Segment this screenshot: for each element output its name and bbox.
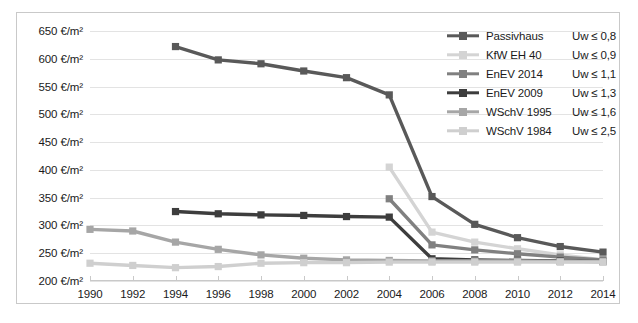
series-marker	[471, 259, 478, 266]
x-axis-tick-label: 2010	[505, 288, 530, 300]
chart-container: 650 €/m²600 €/m²550 €/m²500 €/m²450 €/m²…	[16, 12, 620, 304]
series-marker	[215, 263, 222, 270]
x-axis-tick-label: 1998	[248, 288, 273, 300]
legend-swatch-icon	[447, 30, 479, 41]
series-marker	[300, 212, 307, 219]
y-axis-tick-label: 250 €/m²	[38, 247, 83, 259]
series-marker	[343, 213, 350, 220]
y-axis-tick-label: 200 €/m²	[38, 275, 83, 287]
y-axis-tick-label: 550 €/m²	[38, 81, 83, 93]
x-axis-tick-label: 2004	[377, 288, 402, 300]
legend-item-wschv-1984[interactable]: WSchV 1984Uw ≤ 2,5	[447, 122, 616, 139]
legend-series-name: WSchV 1984	[486, 125, 572, 137]
series-marker	[514, 259, 521, 266]
legend-swatch-icon	[447, 106, 479, 117]
series-marker	[599, 259, 606, 266]
series-marker	[215, 246, 222, 253]
legend-item-wschv-1995[interactable]: WSchV 1995Uw ≤ 1,6	[447, 103, 616, 120]
series-marker	[86, 226, 93, 233]
legend-series-uw-value: Uw ≤ 0,9	[572, 49, 616, 61]
legend-series-uw-value: Uw ≤ 1,3	[572, 87, 616, 99]
series-marker	[386, 259, 393, 266]
legend-series-uw-value: Uw ≤ 2,5	[572, 125, 616, 137]
series-marker	[257, 60, 264, 67]
legend-item-passivhaus[interactable]: PassivhausUw ≤ 0,8	[447, 27, 616, 44]
x-axis-tick-label: 2002	[334, 288, 359, 300]
series-marker	[215, 56, 222, 63]
series-marker	[300, 259, 307, 266]
series-line	[389, 167, 603, 260]
series-marker	[471, 221, 478, 228]
series-wschv-1984	[86, 259, 606, 272]
legend-swatch-icon	[447, 87, 479, 98]
legend-series-name: EnEV 2009	[486, 87, 572, 99]
series-marker	[428, 229, 435, 236]
series-marker	[172, 208, 179, 215]
series-marker	[557, 243, 564, 250]
y-axis-tick-label: 300 €/m²	[38, 219, 83, 231]
x-axis-tick-label: 1994	[163, 288, 188, 300]
series-marker	[428, 193, 435, 200]
x-axis-tick-mark	[603, 276, 604, 281]
legend-series-name: KfW EH 40	[486, 49, 572, 61]
series-marker	[172, 239, 179, 246]
legend-series-name: EnEV 2014	[486, 68, 572, 80]
legend-series-name: Passivhaus	[486, 30, 572, 42]
x-axis-tick-label: 1992	[120, 288, 145, 300]
y-axis-tick-label: 650 €/m²	[38, 25, 83, 37]
series-marker	[257, 251, 264, 258]
series-marker	[514, 234, 521, 241]
x-axis-tick-label: 1990	[77, 288, 102, 300]
series-marker	[557, 259, 564, 266]
x-axis-tick-label: 2000	[291, 288, 316, 300]
series-marker	[129, 227, 136, 234]
series-marker	[514, 250, 521, 257]
legend-series-uw-value: Uw ≤ 0,8	[572, 30, 616, 42]
series-marker	[257, 260, 264, 267]
series-marker	[129, 262, 136, 269]
series-marker	[172, 43, 179, 50]
legend-swatch-icon	[447, 49, 479, 60]
legend-series-name: WSchV 1995	[486, 106, 572, 118]
series-marker	[300, 67, 307, 74]
series-marker	[599, 249, 606, 256]
series-marker	[386, 195, 393, 202]
series-marker	[386, 91, 393, 98]
legend-series-uw-value: Uw ≤ 1,1	[572, 68, 616, 80]
series-marker	[428, 259, 435, 266]
legend-series-uw-value: Uw ≤ 1,6	[572, 106, 616, 118]
gridline	[90, 281, 603, 282]
series-marker	[471, 246, 478, 253]
x-axis-tick-label: 2008	[462, 288, 487, 300]
y-axis-tick-label: 450 €/m²	[38, 136, 83, 148]
y-axis-tick-label: 600 €/m²	[38, 53, 83, 65]
legend-swatch-icon	[447, 125, 479, 136]
series-marker	[343, 74, 350, 81]
series-marker	[386, 214, 393, 221]
y-axis-tick-label: 500 €/m²	[38, 108, 83, 120]
series-marker	[428, 241, 435, 248]
series-marker	[343, 259, 350, 266]
legend-item-enev-2014[interactable]: EnEV 2014Uw ≤ 1,1	[447, 65, 616, 82]
y-axis-tick-label: 400 €/m²	[38, 164, 83, 176]
series-marker	[471, 239, 478, 246]
y-axis-tick-label: 350 €/m²	[38, 192, 83, 204]
series-marker	[86, 260, 93, 267]
x-axis-tick-label: 2006	[419, 288, 444, 300]
series-marker	[257, 211, 264, 218]
legend-item-kfw-eh-40[interactable]: KfW EH 40Uw ≤ 0,9	[447, 46, 616, 63]
legend-swatch-icon	[447, 68, 479, 79]
x-axis-tick-label: 2012	[548, 288, 573, 300]
series-marker	[172, 264, 179, 271]
series-marker	[386, 164, 393, 171]
chart-legend: PassivhausUw ≤ 0,8KfW EH 40Uw ≤ 0,9EnEV …	[447, 27, 616, 139]
series-marker	[215, 210, 222, 217]
legend-item-enev-2009[interactable]: EnEV 2009Uw ≤ 1,3	[447, 84, 616, 101]
x-axis-tick-label: 2014	[590, 288, 615, 300]
x-axis-tick-label: 1996	[206, 288, 231, 300]
